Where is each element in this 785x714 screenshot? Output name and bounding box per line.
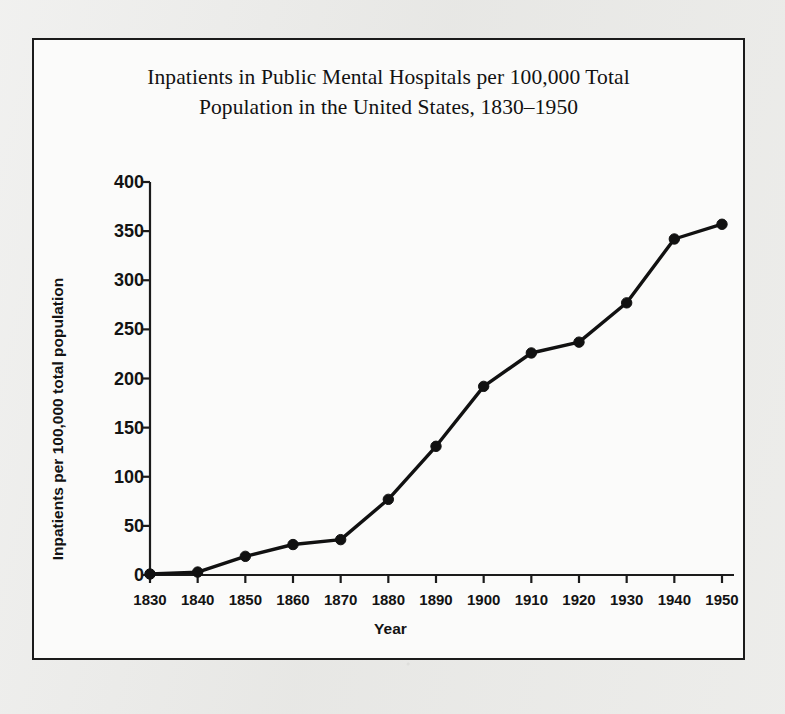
axis-lines <box>150 182 734 575</box>
series-line-inpatients <box>150 224 722 574</box>
figure-frame: Inpatients in Public Mental Hospitals pe… <box>32 38 745 660</box>
series-markers <box>145 219 727 579</box>
axes-and-series <box>34 40 747 662</box>
x-axis-title: Year <box>34 620 747 638</box>
plot-area: 050100150200250300350400 183018401850186… <box>34 40 747 662</box>
y-axis-title: Inpatients per 100,000 total population <box>49 254 67 584</box>
tick-marks <box>142 182 722 583</box>
